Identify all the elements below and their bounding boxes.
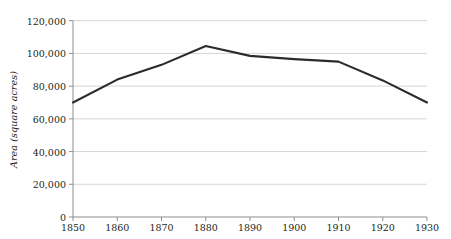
- axis-ticks: [69, 21, 427, 221]
- y-axis-tick-label: 0: [20, 212, 66, 223]
- x-axis-tick-label: 1890: [226, 222, 274, 233]
- y-axis-tick-label: 20,000: [20, 179, 66, 190]
- x-axis-tick-label: 1910: [315, 222, 363, 233]
- gridlines: [73, 21, 427, 185]
- x-axis-tick-label: 1900: [270, 222, 318, 233]
- x-axis-tick-label: 1870: [138, 222, 186, 233]
- x-axis-tick-label: 1850: [49, 222, 97, 233]
- chart-plot-area: [0, 0, 451, 239]
- x-axis-tick-label: 1880: [182, 222, 230, 233]
- y-axis-tick-label: 100,000: [20, 48, 66, 59]
- x-axis-tick-label: 1860: [93, 222, 141, 233]
- x-axis-tick-labels: 185018601870188018901900191019201930: [0, 222, 451, 239]
- y-axis-tick-label: 80,000: [20, 81, 66, 92]
- x-axis-tick-label: 1920: [359, 222, 407, 233]
- y-axis-tick-label: 60,000: [20, 113, 66, 124]
- line-chart: Area (square acres) 020,00040,00060,0008…: [0, 0, 451, 239]
- x-axis-tick-label: 1930: [403, 222, 451, 233]
- y-axis-tick-label: 120,000: [20, 15, 66, 26]
- y-axis-tick-labels: 020,00040,00060,00080,000100,000120,000: [14, 0, 66, 239]
- data-series-line: [73, 46, 427, 102]
- y-axis-tick-label: 40,000: [20, 146, 66, 157]
